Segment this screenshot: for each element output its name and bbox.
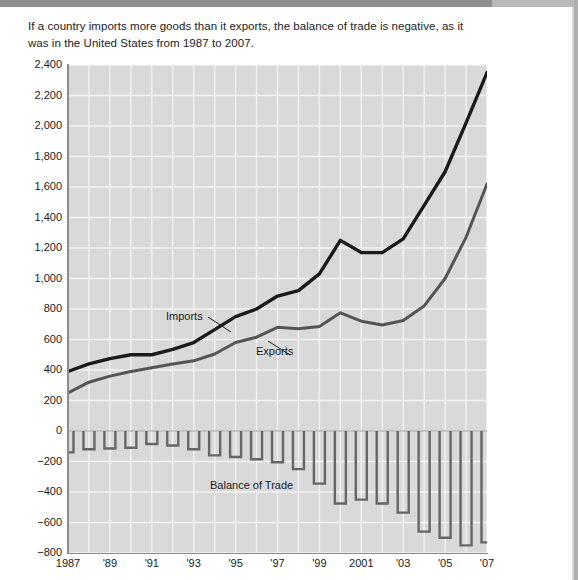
balance-of-trade-bar — [68, 431, 74, 452]
y-tick-label: 1,600 — [34, 180, 62, 192]
x-axis-line — [67, 553, 488, 555]
x-tick-label: '07 — [480, 557, 494, 569]
x-tick-label: '89 — [103, 557, 117, 569]
y-tick-label: 2,400 — [34, 58, 62, 70]
x-tick-label: '93 — [187, 557, 201, 569]
imports-series-label: Imports — [166, 310, 203, 322]
y-tick-label: 600 — [44, 333, 62, 345]
y-tick-label: 1,200 — [34, 241, 62, 253]
balance-of-trade-bar — [482, 431, 488, 542]
y-tick-label: 0 — [56, 424, 62, 436]
x-tick-label: '91 — [145, 557, 159, 569]
y-tick-label: 2,000 — [34, 119, 62, 131]
x-tick-label: 2001 — [349, 557, 373, 569]
y-tick-label: 1,800 — [34, 150, 62, 162]
y-axis-line — [67, 64, 69, 554]
x-tick-label: 1987 — [56, 557, 80, 569]
y-axis-tick-labels: 2,4002,2002,0001,8001,6001,4001,2001,000… — [0, 0, 62, 580]
y-tick-label: 1,400 — [34, 211, 62, 223]
balance-of-trade-label: Balance of Trade — [210, 479, 293, 491]
page-frame-right — [574, 0, 578, 580]
exports-series-label: Exports — [256, 345, 293, 357]
page-frame-right-light — [572, 7, 574, 580]
y-tick-label: −200 — [37, 455, 62, 467]
y-tick-label: 400 — [44, 363, 62, 375]
x-tick-label: '05 — [438, 557, 452, 569]
y-tick-label: −600 — [37, 516, 62, 528]
y-tick-label: 2,200 — [34, 89, 62, 101]
x-tick-label: '95 — [228, 557, 242, 569]
figure-page: If a country imports more goods than it … — [0, 0, 578, 580]
y-tick-label: 200 — [44, 394, 62, 406]
y-tick-label: 1,000 — [34, 272, 62, 284]
y-tick-label: −400 — [37, 485, 62, 497]
x-tick-label: '03 — [396, 557, 410, 569]
y-tick-label: 800 — [44, 302, 62, 314]
x-tick-label: '99 — [312, 557, 326, 569]
chart-container: Billions of dollars 2,4002,2002,0001,800… — [0, 0, 510, 580]
x-tick-label: '97 — [270, 557, 284, 569]
